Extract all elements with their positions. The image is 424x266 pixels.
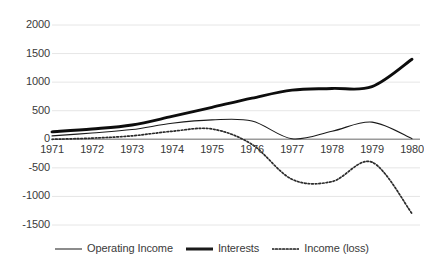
y-axis-tick-label: 500	[6, 105, 50, 116]
series-line-income-loss	[52, 128, 412, 213]
gridline-group	[52, 25, 420, 225]
series-line-interests	[52, 59, 412, 132]
x-axis-tick-label: 1977	[280, 144, 304, 155]
x-axis-tick-label: 1973	[120, 144, 144, 155]
y-axis-tick-label: -1500	[6, 219, 50, 230]
y-axis-tick-label: 1500	[6, 48, 50, 59]
x-axis-tick-label: 1972	[80, 144, 104, 155]
chart-plot-area	[0, 0, 424, 266]
legend-item[interactable]: Income (loss)	[272, 243, 369, 254]
x-axis-tick-label: 1971	[40, 144, 64, 155]
legend-item[interactable]: Interests	[186, 243, 259, 254]
x-axis-tick-label: 1979	[360, 144, 384, 155]
y-axis-tick-label: 2000	[6, 19, 50, 30]
y-axis-tick-label: 1000	[6, 76, 50, 87]
chart-legend: Operating IncomeInterestsIncome (loss)	[0, 243, 424, 254]
legend-swatch-icon	[55, 245, 82, 253]
legend-swatch-icon	[272, 245, 299, 253]
legend-swatch-icon	[186, 245, 213, 253]
y-axis-tick-label: -500	[6, 162, 50, 173]
x-axis-tick-label: 1974	[160, 144, 184, 155]
legend-label: Operating Income	[87, 243, 173, 254]
y-axis-tick-label: -1000	[6, 190, 50, 201]
legend-item[interactable]: Operating Income	[55, 243, 173, 254]
line-chart: 2000150010005000-500-1000-1500 197119721…	[0, 0, 424, 266]
x-axis-tick-label: 1976	[240, 144, 264, 155]
legend-label: Interests	[218, 243, 259, 254]
x-axis-tick-label: 1978	[320, 144, 344, 155]
x-axis-tick-label: 1980	[400, 144, 424, 155]
legend-label: Income (loss)	[304, 243, 369, 254]
x-axis-tick-label: 1975	[200, 144, 224, 155]
